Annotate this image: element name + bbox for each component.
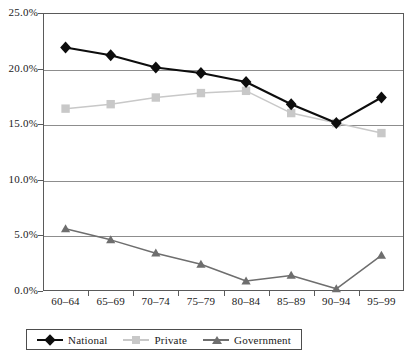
data-point [106, 100, 114, 108]
legend-swatch [37, 334, 63, 346]
legend-label: Private [154, 334, 187, 346]
x-tick-mark [133, 291, 134, 296]
series-national [60, 41, 387, 129]
data-point [286, 98, 297, 110]
triangle-marker-icon [212, 336, 222, 344]
legend-entry-national[interactable]: National [37, 334, 107, 346]
diamond-marker-icon [44, 334, 55, 345]
x-tick-mark [224, 291, 225, 296]
x-tick-label: 85–89 [269, 295, 314, 308]
x-tick-mark [314, 291, 315, 296]
legend-swatch [203, 334, 229, 346]
y-tick-label: 20.0% [0, 63, 38, 74]
data-point [196, 67, 207, 79]
x-tick-label: 65–69 [88, 295, 133, 308]
series-layer [43, 13, 404, 291]
x-tick-label: 90–94 [314, 295, 359, 308]
x-tick-label: 80–84 [224, 295, 269, 308]
data-point [377, 129, 385, 137]
series-line [66, 47, 382, 123]
x-tick-mark [178, 291, 179, 296]
y-axis: 0.0%5.0%10.0%15.0%20.0%25.0% [0, 0, 38, 356]
chart-legend: NationalPrivateGovernment [26, 329, 302, 350]
x-tick-mark [88, 291, 89, 296]
y-tick-label: 25.0% [0, 7, 38, 18]
y-tick-label: 15.0% [0, 118, 38, 129]
chart-container: 0.0%5.0%10.0%15.0%20.0%25.0% 60–6465–697… [0, 0, 419, 356]
data-point [61, 104, 69, 112]
legend-entry-private[interactable]: Private [123, 334, 187, 346]
data-point [105, 49, 116, 61]
legend-label: Government [234, 334, 291, 346]
x-tick-mark [359, 291, 360, 296]
y-tick-label: 5.0% [0, 229, 38, 240]
x-tick-label: 95–99 [359, 295, 404, 308]
x-tick-label: 70–74 [133, 295, 178, 308]
data-point [376, 92, 387, 104]
data-point [377, 251, 386, 259]
y-tick-label: 10.0% [0, 174, 38, 185]
square-marker-icon [132, 336, 140, 344]
x-tick-mark [269, 291, 270, 296]
data-point [287, 271, 296, 279]
x-tick-label: 60–64 [43, 295, 88, 308]
y-tick-label: 0.0% [0, 285, 38, 296]
legend-entry-government[interactable]: Government [203, 334, 291, 346]
legend-label: National [68, 334, 107, 346]
data-point [152, 93, 160, 101]
data-point [150, 61, 161, 73]
x-axis: 60–6465–6970–7475–7980–8485–8990–9495–99 [43, 295, 404, 313]
data-point [241, 76, 252, 88]
data-point [60, 41, 71, 53]
x-tick-label: 75–79 [178, 295, 223, 308]
data-point [197, 89, 205, 97]
series-line [66, 229, 382, 289]
y-tick-mark [38, 291, 43, 292]
data-point [61, 224, 70, 232]
legend-swatch [123, 334, 149, 346]
series-private [61, 87, 385, 138]
series-government [61, 224, 386, 292]
